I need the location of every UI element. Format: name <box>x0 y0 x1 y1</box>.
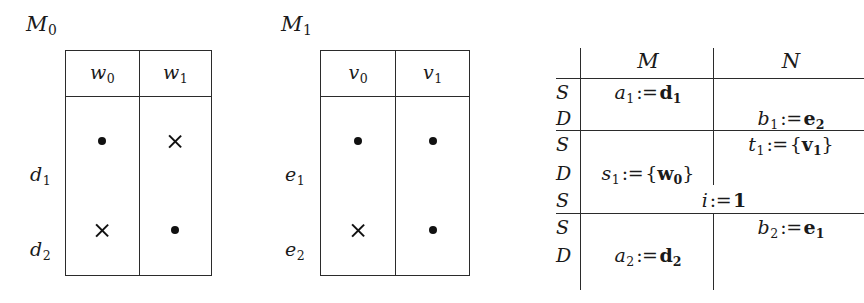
assign-op: := <box>764 133 789 155</box>
dot-icon <box>354 137 362 145</box>
assignment-table: M N S a1:=d1 D b1:=e2 S t1:={v1} <box>556 48 864 298</box>
assign-op: := <box>634 244 659 266</box>
colheader-base: v <box>348 61 359 83</box>
row-label-base: d <box>30 163 42 185</box>
rhs-sub: 2 <box>673 254 682 269</box>
rhs-sub: 2 <box>816 117 825 132</box>
assign-op: := <box>778 216 803 238</box>
row-label-sub: 1 <box>297 173 305 188</box>
row-label-sub: 2 <box>43 248 51 263</box>
matrix-m0: w0 w1 <box>65 50 212 276</box>
row-marker: S <box>556 131 578 157</box>
row-marker: S <box>556 214 578 240</box>
matrix-m1-cell-e2-v0 <box>321 186 395 276</box>
cross-icon <box>94 222 111 239</box>
row-label-sub: 1 <box>43 173 51 188</box>
assign-op: := <box>634 81 659 103</box>
matrix-m0-colheader-w1: w1 <box>139 51 212 96</box>
matrix-m0-cell-d2-w0 <box>66 186 139 276</box>
cross-icon <box>167 133 184 150</box>
row-cell-span: i:=1 <box>582 187 864 213</box>
lhs: b <box>758 216 770 238</box>
matrix-m0-cell-d1-w0 <box>66 96 139 186</box>
table-row: S t1:={v1} <box>556 131 864 157</box>
rhs: d <box>660 81 673 103</box>
rhs: 1 <box>733 189 746 211</box>
dot-icon <box>429 226 437 234</box>
row-label-base: d <box>30 238 42 260</box>
rhs-sub: 1 <box>813 143 822 158</box>
lhs: i <box>702 189 708 211</box>
rhs: e <box>804 107 816 129</box>
colheader-sub: 0 <box>360 71 368 86</box>
matrix-m1-cell-e1-v1 <box>395 96 469 186</box>
rhs: v <box>802 133 813 155</box>
lhs: b <box>758 107 770 129</box>
panel-left-caption-sub: 0 <box>48 22 57 38</box>
lhs: a <box>614 81 625 103</box>
rhs: d <box>660 244 673 266</box>
panel-middle-caption-base: M <box>281 12 303 36</box>
matrix-m0-cell-d2-w1 <box>139 186 212 276</box>
lhs: a <box>614 244 625 266</box>
panel-middle-row-label-0: e1 <box>285 165 305 187</box>
row-label-base: e <box>285 163 296 185</box>
table-row: D s1:={w0} <box>556 160 864 186</box>
dot-icon <box>171 226 179 234</box>
assignment-table-header-m: M <box>582 48 714 74</box>
rhs: w <box>657 162 673 184</box>
colheader-base: w <box>163 61 179 83</box>
lhs: t <box>748 133 756 155</box>
table-row: S b2:=e1 <box>556 214 864 240</box>
assignment-table-header-n: N <box>716 48 864 74</box>
row-cell-m: a2:=d2 <box>582 242 714 275</box>
matrix-m0-cell-d1-w1 <box>139 96 212 186</box>
row-marker: D <box>556 242 578 268</box>
brace-open: { <box>645 162 657 184</box>
panel-left-caption-base: M <box>26 12 48 36</box>
figure-canvas: M0 d1 d2 w0 w1 M1 e1 e2 <box>0 0 864 303</box>
rhs-sub: 1 <box>673 91 682 106</box>
row-label-sub: 2 <box>297 248 305 263</box>
matrix-m1-cell-e1-v0 <box>321 96 395 186</box>
matrix-m0-colheader-w0: w0 <box>66 51 139 96</box>
table-row: S a1:=d1 <box>556 79 864 105</box>
colheader-sub: 1 <box>434 71 442 86</box>
colheader-sub: 0 <box>107 71 115 86</box>
matrix-m1-colheader-v1: v1 <box>395 51 469 96</box>
lhs: s <box>602 162 612 184</box>
dot-icon <box>429 137 437 145</box>
panel-middle-caption-sub: 1 <box>303 22 312 38</box>
table-row: S i:=1 <box>556 187 864 213</box>
assign-op: := <box>620 162 645 184</box>
panel-left-row-label-1: d2 <box>30 240 51 262</box>
cross-icon <box>350 222 367 239</box>
colheader-base: v <box>423 61 434 83</box>
brace-close: } <box>822 133 834 155</box>
row-marker: S <box>556 187 578 213</box>
lhs-sub: 1 <box>612 172 620 187</box>
matrix-m1-colheader-v0: v0 <box>321 51 395 96</box>
assign-op: := <box>778 107 803 129</box>
row-cell-n: t1:={v1} <box>716 131 864 164</box>
brace-open: { <box>790 133 802 155</box>
row-marker: S <box>556 79 578 105</box>
assign-op: := <box>708 189 733 211</box>
table-row: D a2:=d2 <box>556 242 864 268</box>
panel-left-row-label-0: d1 <box>30 165 51 187</box>
dot-icon <box>98 137 106 145</box>
matrix-m1-cell-e2-v1 <box>395 186 469 276</box>
rhs-sub: 1 <box>816 226 825 241</box>
table-row: D b1:=e2 <box>556 105 864 131</box>
matrix-m1: v0 v1 <box>320 50 470 276</box>
brace-close: } <box>682 162 694 184</box>
colheader-base: w <box>90 61 106 83</box>
row-marker: D <box>556 160 578 186</box>
row-label-base: e <box>285 238 296 260</box>
colheader-sub: 1 <box>180 71 188 86</box>
panel-middle-caption: M1 <box>281 14 312 38</box>
panel-middle-row-label-1: e2 <box>285 240 305 262</box>
row-marker: D <box>556 105 578 131</box>
panel-left-caption: M0 <box>26 14 57 38</box>
rhs: e <box>804 216 816 238</box>
